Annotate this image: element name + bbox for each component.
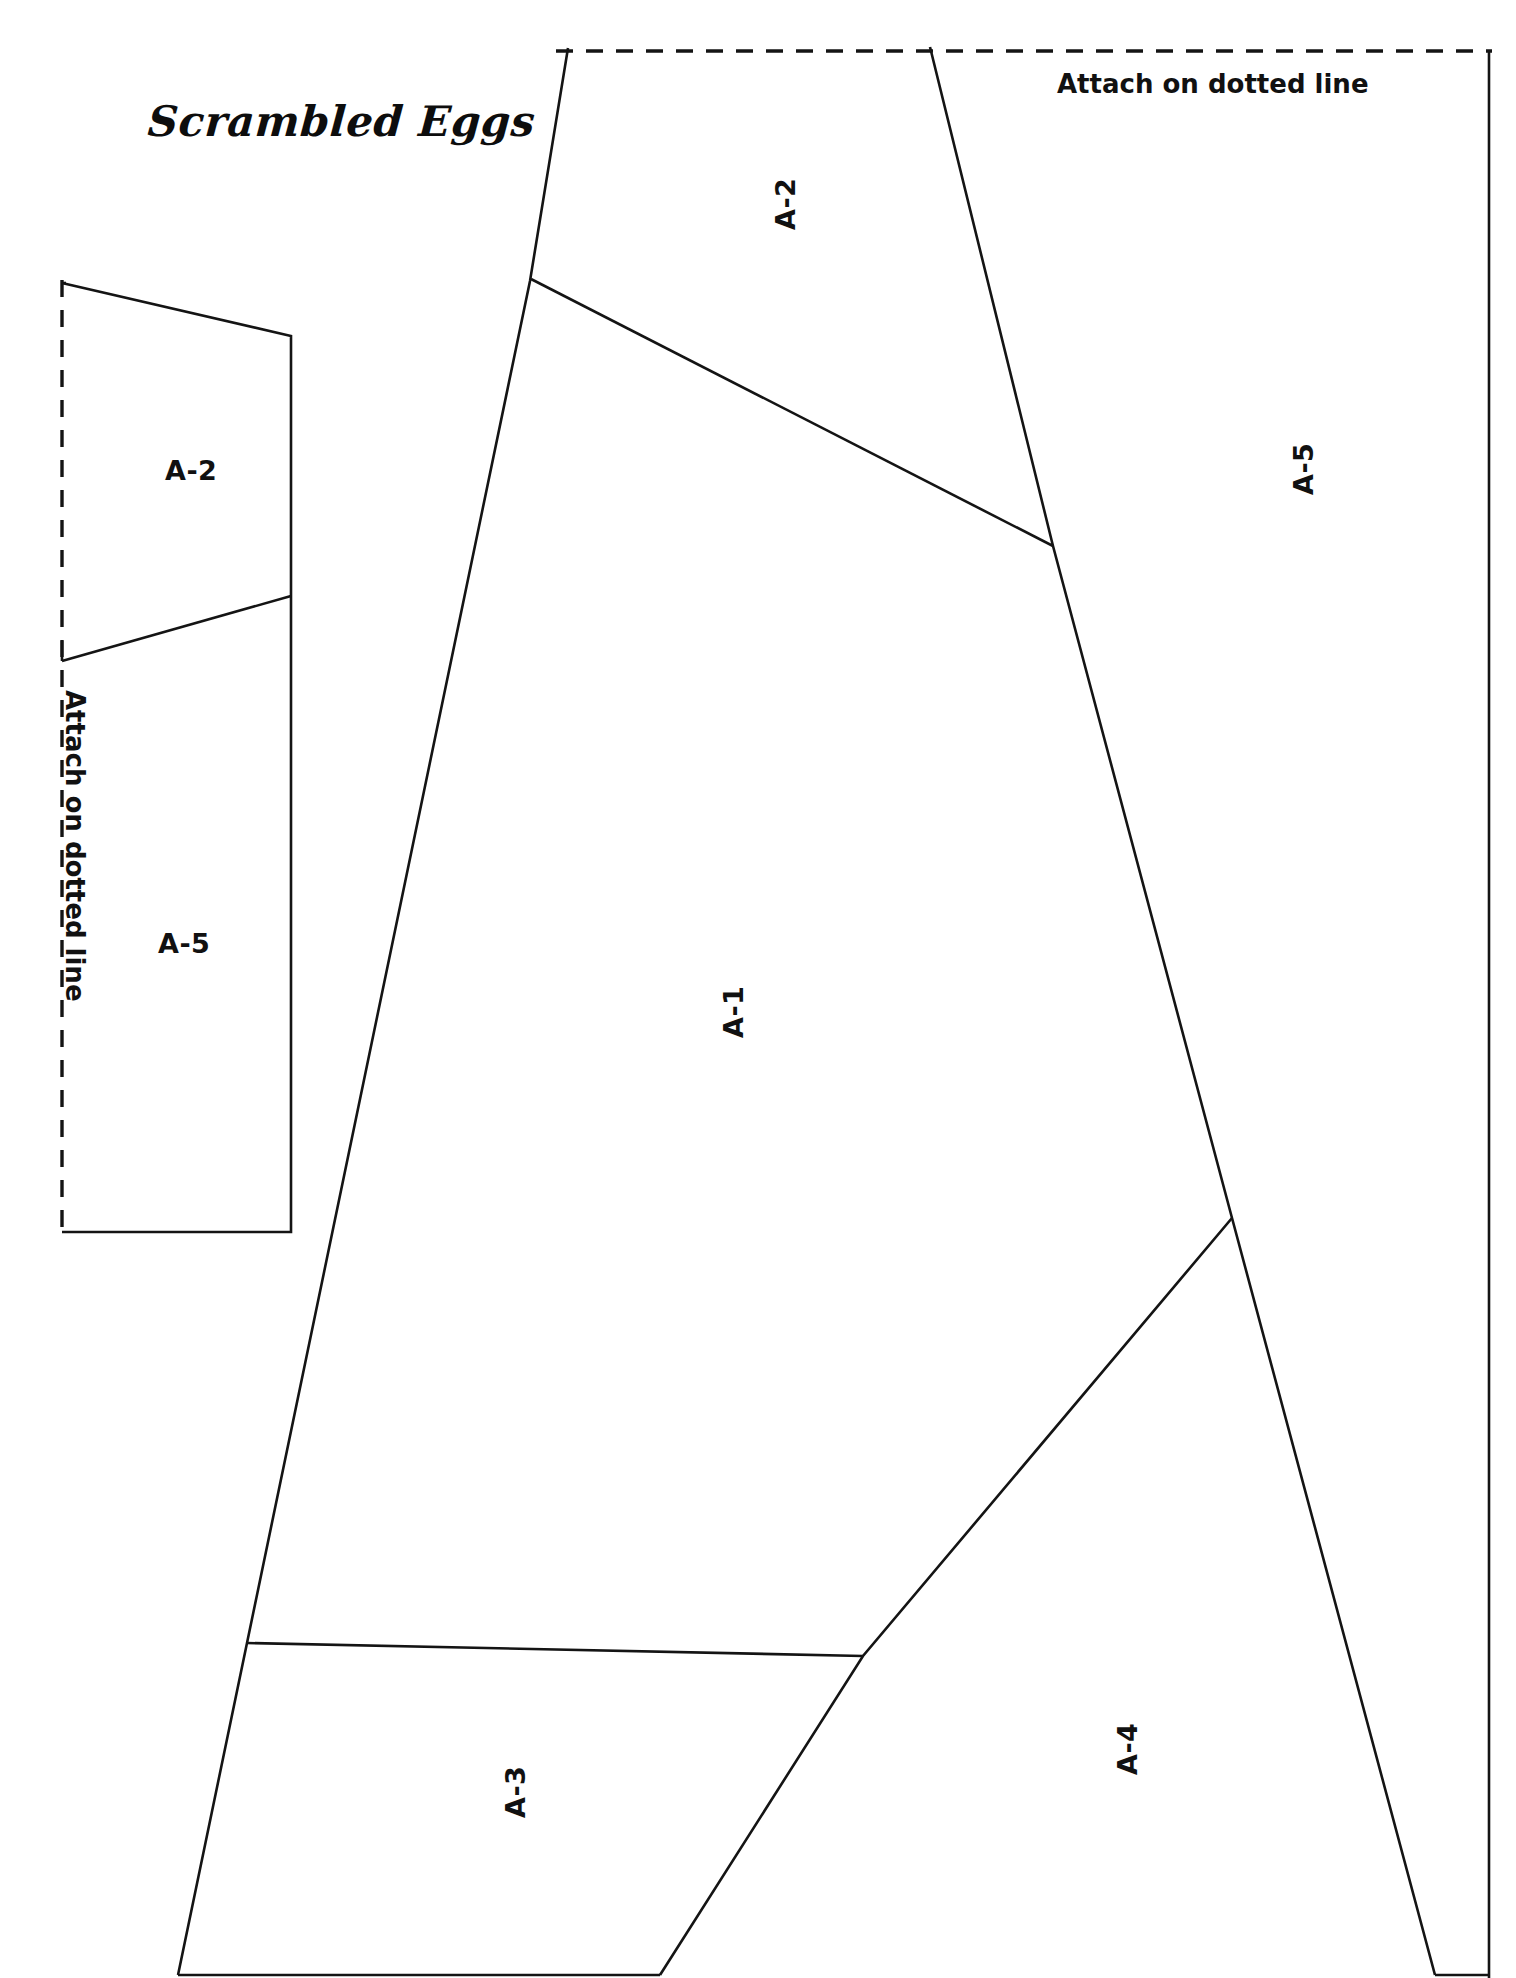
pattern-drawing [0,0,1516,1978]
piece-label-a4: A-4 [1112,1723,1143,1775]
left-tab-divider [62,596,291,661]
left-tab-panel [62,280,291,1234]
left-tab-outline [62,283,291,1232]
a2-a1-divider [531,279,1053,546]
piece-label-a1: A-1 [718,986,749,1038]
piece-label-a3: A-3 [500,1766,531,1818]
attach-on-dotted-line-top: Attach on dotted line [1057,69,1369,99]
piece-label-a5-tab: A-5 [158,928,210,959]
left-edge-a1 [178,48,568,1975]
pattern-sheet: Scrambled Eggs Attach on dotted line Att… [0,0,1516,1978]
internal-fold-lines [247,279,1232,1975]
piece-label-a5: A-5 [1288,443,1319,495]
piece-label-a2: A-2 [770,178,801,230]
a3-a1-divider [247,1643,863,1656]
page-title: Scrambled Eggs [146,97,537,146]
main-body-outline [178,47,1489,1975]
piece-label-a2-tab: A-2 [165,455,217,486]
a5-left-edge [930,47,1435,1975]
attach-on-dotted-line-left: Attach on dotted line [60,690,90,1002]
a1-a4-divider [660,1218,1232,1975]
